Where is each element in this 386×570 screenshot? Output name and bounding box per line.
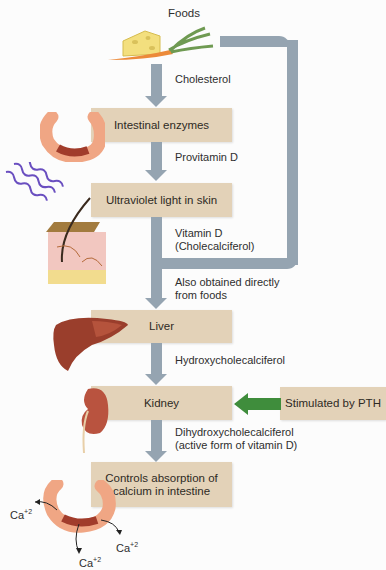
foods-icon bbox=[105, 26, 220, 62]
green-arrow-left-icon bbox=[234, 393, 282, 415]
calcium-label-left: Ca+2 bbox=[10, 505, 32, 522]
kidney-icon bbox=[78, 385, 112, 455]
kidney-text: Kidney bbox=[144, 397, 179, 410]
intestinal-enzymes-box: Intestinal enzymes bbox=[91, 108, 232, 142]
hydroxycholecalciferol-label: Hydroxycholecalciferol bbox=[175, 354, 285, 367]
arrow-down-icon bbox=[145, 451, 167, 462]
provitamin-d-label: Provitamin D bbox=[175, 151, 238, 164]
foods-label: Foods bbox=[168, 7, 200, 20]
vitamin-d-label: Vitamin D bbox=[175, 227, 222, 240]
arrow-shaft bbox=[151, 343, 162, 375]
bypass-label-line1: Also obtained directly bbox=[175, 276, 280, 289]
liver-icon bbox=[52, 315, 132, 373]
kidney-box: Kidney bbox=[91, 386, 232, 420]
arrow-shaft bbox=[151, 217, 162, 300]
cholecalciferol-label: (Cholecalciferol) bbox=[175, 240, 254, 253]
ultraviolet-light-box: Ultraviolet light in skin bbox=[91, 183, 232, 217]
active-form-label: (active form of vitamin D) bbox=[175, 439, 297, 452]
arrow-down-icon bbox=[145, 298, 167, 309]
bypass-top-bar bbox=[220, 36, 290, 47]
calcium-label-right: Ca+2 bbox=[116, 538, 138, 555]
pth-box: Stimulated by PTH bbox=[280, 387, 386, 420]
bypass-vertical-bar bbox=[287, 40, 298, 265]
pth-text: Stimulated by PTH bbox=[285, 397, 381, 410]
dihydroxycholecalciferol-label: Dihydroxycholecalciferol bbox=[175, 426, 294, 439]
intestine-icon bbox=[40, 112, 105, 162]
arrow-shaft bbox=[151, 64, 162, 97]
liver-text: Liver bbox=[149, 320, 174, 333]
arrow-shaft bbox=[151, 142, 162, 170]
calcium-absorption-text-line2: calcium in intestine bbox=[113, 485, 210, 498]
cholesterol-label: Cholesterol bbox=[175, 73, 231, 86]
arrow-down-icon bbox=[145, 374, 167, 385]
calcium-label-bottom: Ca+2 bbox=[79, 553, 101, 570]
bypass-label-line2: from foods bbox=[175, 289, 227, 302]
intestine-calcium-icon bbox=[35, 480, 125, 560]
arrow-down-icon bbox=[145, 96, 167, 107]
ultraviolet-light-text: Ultraviolet light in skin bbox=[106, 194, 217, 207]
skin-uv-icon bbox=[2, 162, 107, 292]
bypass-bottom-bar bbox=[152, 258, 298, 269]
arrow-down-icon bbox=[145, 170, 167, 181]
arrow-shaft bbox=[151, 420, 162, 452]
intestinal-enzymes-text: Intestinal enzymes bbox=[114, 119, 209, 132]
